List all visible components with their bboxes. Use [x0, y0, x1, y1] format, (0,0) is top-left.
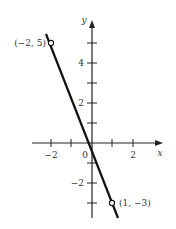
y-axis-label: y	[80, 15, 87, 25]
y-tick-label: −2	[71, 178, 84, 188]
x-tick-label: −2	[44, 150, 57, 160]
y-axis-arrow-icon	[89, 20, 95, 28]
origin-label: 0	[82, 150, 88, 160]
y-tick-label: 4	[78, 58, 84, 68]
x-tick-label: 2	[130, 150, 136, 160]
y-tick-label: 2	[78, 98, 84, 108]
x-axis-arrow-icon	[155, 140, 163, 146]
chart: −2 0 2 4 2 −2 x y (−2, 5) (1, −3)	[0, 0, 176, 229]
point-label: (−2, 5)	[14, 38, 46, 48]
point-open-circle	[48, 40, 53, 45]
point-label: (1, −3)	[119, 198, 151, 208]
point-open-circle	[109, 200, 114, 205]
x-axis-label: x	[157, 148, 162, 158]
